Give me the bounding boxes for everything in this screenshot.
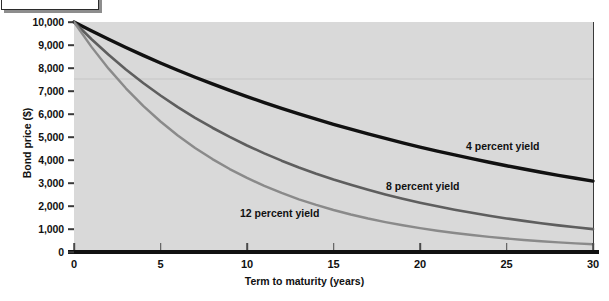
y-tick xyxy=(68,205,74,207)
y-axis-title: Bond price ($) xyxy=(21,88,33,198)
x-tick xyxy=(333,243,335,250)
plot-area xyxy=(74,22,594,252)
x-tick xyxy=(73,243,75,250)
bond-price-chart: 01,0002,0003,0004,0005,0006,0007,0008,00… xyxy=(0,0,609,301)
y-tick xyxy=(68,90,74,92)
x-tick-label: 10 xyxy=(241,258,253,270)
y-tick-label: 2,000 xyxy=(16,200,64,212)
series-label-4-percent: 4 percent yield xyxy=(466,140,540,152)
y-tick-label: 1,000 xyxy=(16,223,64,235)
x-tick xyxy=(160,243,162,250)
y-tick xyxy=(68,67,74,69)
x-axis-baseline xyxy=(68,250,599,254)
series-label-8-percent: 8 percent yield xyxy=(386,180,460,192)
x-tick-label: 0 xyxy=(71,258,77,270)
cropped-caption-box xyxy=(1,0,99,10)
x-tick-label: 30 xyxy=(587,258,599,270)
x-tick xyxy=(592,243,594,250)
y-tick xyxy=(68,21,74,23)
faint-horizontal-band xyxy=(74,78,593,80)
y-tick-label: 8,000 xyxy=(16,62,64,74)
y-tick xyxy=(68,159,74,161)
y-tick xyxy=(68,44,74,46)
y-tick xyxy=(68,228,74,230)
y-tick xyxy=(68,113,74,115)
x-axis-title: Term to maturity (years) xyxy=(0,275,609,287)
x-tick xyxy=(506,243,508,250)
x-tick-label: 20 xyxy=(414,258,426,270)
y-tick-label: 10,000 xyxy=(16,16,64,28)
y-tick-label: 9,000 xyxy=(16,39,64,51)
x-tick xyxy=(246,243,248,250)
y-tick xyxy=(68,136,74,138)
y-tick xyxy=(68,182,74,184)
x-tick-label: 15 xyxy=(327,258,339,270)
series-label-12-percent: 12 percent yield xyxy=(240,207,319,219)
x-tick-label: 5 xyxy=(157,258,163,270)
y-tick xyxy=(68,251,74,253)
x-tick xyxy=(419,243,421,250)
x-tick-label: 25 xyxy=(500,258,512,270)
y-tick-label: 0 xyxy=(16,246,64,258)
